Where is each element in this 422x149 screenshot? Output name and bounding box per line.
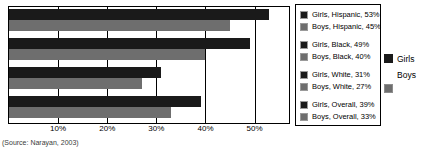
legend-item-girls-overall: Girls, Overall, 39% — [300, 99, 376, 110]
legend-label: Boys, Black, 40% — [312, 52, 370, 61]
legend-item-girls-white: Girls, White, 31% — [300, 69, 371, 80]
plot-area — [8, 6, 290, 124]
series-legend-item-girls: Girls — [384, 52, 422, 65]
legend-group-white: Girls, White, 31%Boys, White, 27% — [300, 69, 371, 93]
bar-boys-white — [9, 78, 142, 89]
legend-box: Girls, Hispanic, 53%Boys, Hispanic, 45%G… — [295, 4, 381, 126]
legend-swatch-girls — [300, 71, 308, 79]
bar-group-overall — [9, 96, 289, 118]
x-tick-label-20: 20% — [99, 124, 115, 134]
legend-label: Girls, White, 31% — [312, 70, 370, 79]
x-tick-label-10: 10% — [50, 124, 66, 134]
legend-group-overall: Girls, Overall, 39%Boys, Overall, 33% — [300, 99, 376, 123]
bar-group-white — [9, 67, 289, 89]
x-axis: 10%20%30%40%50% — [8, 124, 290, 138]
legend-label: Girls, Hispanic, 53% — [312, 10, 380, 19]
bar-boys-hispanic — [9, 20, 230, 31]
series-legend: Girls Boys — [384, 52, 422, 84]
series-legend-label-girls: Girls — [397, 54, 414, 64]
legend-label: Girls, Overall, 39% — [312, 100, 375, 109]
legend-swatch-boys — [300, 83, 308, 91]
legend-item-girls-black: Girls, Black, 49% — [300, 39, 370, 50]
bar-girls-black — [9, 38, 250, 49]
series-swatch-girls — [384, 54, 393, 63]
bar-group-hispanic — [9, 9, 289, 31]
legend-label: Girls, Black, 49% — [312, 40, 369, 49]
series-legend-item-boys: Boys — [384, 68, 422, 81]
legend-swatch-boys — [300, 113, 308, 121]
legend-swatch-boys — [300, 23, 308, 31]
legend-swatch-boys — [300, 53, 308, 61]
x-tick-label-40: 40% — [197, 124, 213, 134]
legend-item-girls-hispanic: Girls, Hispanic, 53% — [300, 9, 381, 20]
source-note: (Source: Narayan, 2003) — [2, 138, 79, 147]
legend-swatch-girls — [300, 11, 308, 19]
legend-swatch-girls — [300, 101, 308, 109]
legend-item-boys-white: Boys, White, 27% — [300, 81, 371, 92]
series-swatch-boys — [384, 84, 393, 93]
legend-label: Boys, White, 27% — [312, 82, 371, 91]
bar-girls-overall — [9, 96, 201, 107]
legend-group-black: Girls, Black, 49%Boys, Black, 40% — [300, 39, 370, 63]
legend-item-boys-black: Boys, Black, 40% — [300, 51, 370, 62]
legend-swatch-girls — [300, 41, 308, 49]
legend-group-hispanic: Girls, Hispanic, 53%Boys, Hispanic, 45% — [300, 9, 381, 33]
legend-item-boys-overall: Boys, Overall, 33% — [300, 111, 376, 122]
bar-group-black — [9, 38, 289, 60]
bar-chart-figure: 10%20%30%40%50% (Source: Narayan, 2003) … — [0, 0, 422, 149]
bar-boys-black — [9, 49, 205, 60]
x-tick-label-50: 50% — [247, 124, 263, 134]
bar-boys-overall — [9, 107, 171, 118]
bars-layer — [9, 7, 289, 123]
legend-label: Boys, Overall, 33% — [312, 112, 376, 121]
legend-label: Boys, Hispanic, 45% — [312, 22, 381, 31]
x-tick-label-30: 30% — [148, 124, 164, 134]
series-legend-label-boys: Boys — [397, 70, 416, 80]
bar-girls-hispanic — [9, 9, 269, 20]
bar-girls-white — [9, 67, 161, 78]
legend-item-boys-hispanic: Boys, Hispanic, 45% — [300, 21, 381, 32]
